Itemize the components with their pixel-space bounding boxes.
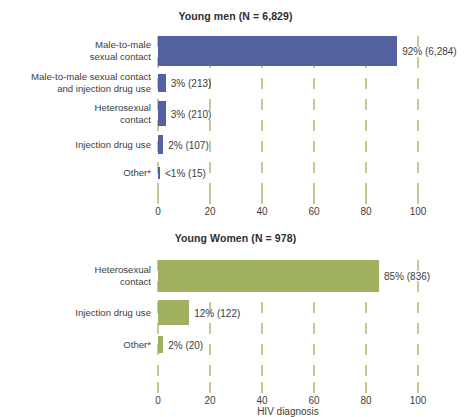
axis-tick-0	[157, 382, 159, 393]
category-label: Other*	[123, 338, 151, 350]
axis-tick-label-80: 80	[360, 206, 371, 217]
plot-area-young-women: Heterosexualcontact85% (836)Injection dr…	[158, 260, 418, 382]
value-label: 12% (122)	[194, 307, 240, 318]
axis-tick-label-0: 0	[155, 395, 161, 406]
axis-tick-80	[365, 193, 367, 204]
axis-tick-20	[209, 193, 211, 204]
category-label: Heterosexualcontact	[94, 264, 151, 289]
value-label: 85% (836)	[384, 271, 430, 282]
value-label: 3% (210)	[171, 108, 212, 119]
axis-tick-label-80: 80	[360, 395, 371, 406]
value-label: <1% (15)	[165, 168, 206, 179]
axis-tick-label-0: 0	[155, 206, 161, 217]
bar	[158, 167, 160, 179]
bar-row: Other*2% (20)	[158, 336, 418, 353]
bar	[158, 260, 379, 292]
chart-title-young-women: Young Women (N = 978)	[0, 232, 471, 244]
chart-panel-young-men: Young men (N = 6,829) Male-to-malesexual…	[0, 0, 471, 222]
axis-tick-20	[209, 382, 211, 393]
value-label: 2% (20)	[168, 339, 203, 350]
axis-tick-40	[261, 193, 263, 204]
category-label: Male-to-male sexual contactand injection…	[31, 71, 151, 96]
axis-tick-label-100: 100	[410, 206, 427, 217]
bar-row: Injection drug use2% (107)	[158, 135, 418, 154]
bar-row: Injection drug use12% (122)	[158, 300, 418, 325]
bar	[158, 36, 397, 66]
bar	[158, 135, 163, 154]
value-label: 2% (107)	[168, 139, 209, 150]
axis-tick-80	[365, 382, 367, 393]
bar-row: Male-to-malesexual contact92% (6,284)	[158, 36, 418, 66]
value-label: 3% (213)	[171, 78, 212, 89]
axis-tick-40	[261, 382, 263, 393]
chart-panel-young-women: Young Women (N = 978) Heterosexualcontac…	[0, 224, 471, 412]
axis-tick-label-40: 40	[256, 206, 267, 217]
axis-tick-label-40: 40	[256, 395, 267, 406]
bar-row: Male-to-male sexual contactand injection…	[158, 74, 418, 92]
bar	[158, 300, 189, 325]
x-axis-title: HIV diagnosis	[158, 406, 418, 417]
axis-tick-100	[417, 382, 419, 393]
bar-row: Heterosexualcontact85% (836)	[158, 260, 418, 292]
axis-tick-60	[313, 382, 315, 393]
bar-row: Other*<1% (15)	[158, 167, 418, 179]
axis-tick-0	[157, 193, 159, 204]
bar	[158, 74, 166, 92]
bar	[158, 336, 163, 353]
category-label: Injection drug use	[75, 306, 151, 318]
category-label: Injection drug use	[75, 138, 151, 150]
axis-tick-60	[313, 193, 315, 204]
value-label: 92% (6,284)	[402, 46, 456, 57]
plot-area-young-men: Male-to-malesexual contact92% (6,284)Mal…	[158, 36, 418, 193]
axis-tick-label-20: 20	[204, 206, 215, 217]
bar	[158, 101, 166, 126]
category-label: Heterosexualcontact	[94, 101, 151, 126]
chart-title-young-men: Young men (N = 6,829)	[0, 10, 471, 22]
category-label: Other*	[123, 167, 151, 179]
axis-tick-label-20: 20	[204, 395, 215, 406]
axis-tick-label-100: 100	[410, 395, 427, 406]
axis-tick-100	[417, 193, 419, 204]
axis-tick-label-60: 60	[308, 395, 319, 406]
bar-row: Heterosexualcontact3% (210)	[158, 101, 418, 126]
category-label: Male-to-malesexual contact	[90, 39, 151, 64]
axis-tick-label-60: 60	[308, 206, 319, 217]
